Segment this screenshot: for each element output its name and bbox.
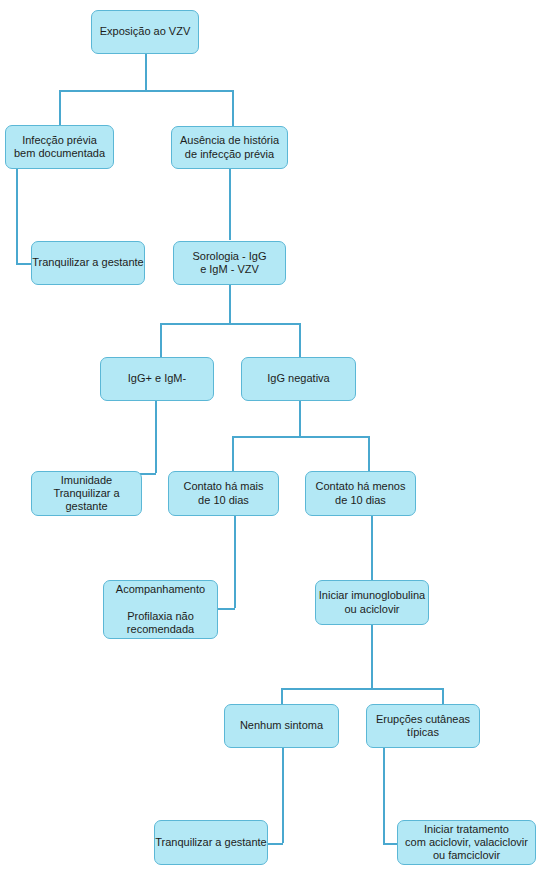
node-contact-less: Contato há menos de 10 dias xyxy=(305,471,416,516)
connector xyxy=(16,168,18,263)
node-prior-infection: Infecção prévia bem documentada xyxy=(5,125,114,169)
node-treatment: Iniciar tratamento com aciclovir, valaci… xyxy=(397,820,536,865)
connector xyxy=(229,168,231,240)
connector xyxy=(442,688,444,705)
node-serology: Sorologia - IgG e IgM - VZV xyxy=(173,241,286,285)
connector xyxy=(371,515,373,580)
connector xyxy=(59,90,61,126)
node-followup: Acompanhamento Profilaxia não recomendad… xyxy=(103,580,218,639)
connector xyxy=(160,323,162,357)
connector xyxy=(16,263,32,265)
connector xyxy=(368,436,370,471)
node-exposure: Exposição ao VZV xyxy=(91,10,199,54)
node-immunity: Imunidade Tranquilizar a gestante xyxy=(31,471,142,516)
connector xyxy=(218,608,235,610)
connector xyxy=(266,843,283,845)
connector xyxy=(232,436,369,438)
connector xyxy=(155,400,157,473)
connector xyxy=(282,747,284,843)
connector xyxy=(299,400,301,436)
node-rash: Erupções cutâneas típicas xyxy=(366,704,480,748)
connector xyxy=(229,285,231,323)
connector xyxy=(160,323,300,325)
node-start-immunoglobulin: Iniciar imunoglobulina ou aciclovir xyxy=(315,580,429,625)
connector xyxy=(145,53,147,90)
connector xyxy=(59,90,233,92)
node-contact-more: Contato há mais de 10 dias xyxy=(168,471,279,516)
node-igg-positive: IgG+ e IgM- xyxy=(100,357,214,401)
connector xyxy=(232,90,234,126)
connector xyxy=(371,624,373,688)
connector xyxy=(140,473,156,475)
node-no-symptom: Nenhum sintoma xyxy=(224,704,339,748)
connector xyxy=(281,688,283,705)
node-igg-negative: IgG negativa xyxy=(241,357,356,401)
node-reassure-1: Tranquilizar a gestante xyxy=(31,241,145,285)
connector xyxy=(383,843,398,845)
connector xyxy=(299,323,301,357)
connector xyxy=(232,436,234,471)
connector xyxy=(383,747,385,843)
node-reassure-2: Tranquilizar a gestante xyxy=(154,820,268,865)
connector xyxy=(234,515,236,608)
node-no-history: Ausência de história de infecção prévia xyxy=(171,126,288,169)
connector xyxy=(281,688,443,690)
